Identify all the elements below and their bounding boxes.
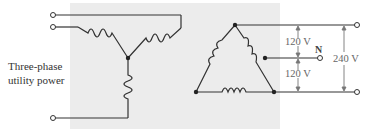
source-label-line1: Three-phase: [8, 60, 62, 73]
voltage-top-label: 120 V: [285, 36, 311, 47]
voltage-bottom-label: 120 V: [285, 68, 311, 79]
voltage-total-label: 240 V: [333, 53, 359, 64]
neutral-label: N: [315, 43, 322, 56]
source-label-line2: utility power: [8, 74, 65, 87]
